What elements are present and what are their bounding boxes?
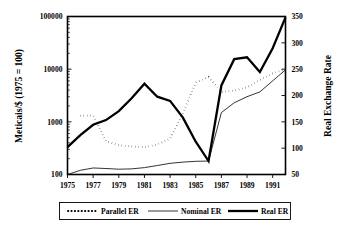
y2-axis-title: Real Exchange Rate — [323, 55, 333, 137]
y2-tick-label: 350 — [292, 12, 304, 21]
y2-tick-label: 300 — [292, 39, 304, 48]
y-tick-label: 10000 — [44, 65, 63, 74]
y-axis-tick-labels: 100100010000100000 — [40, 12, 63, 179]
x-tick-label: 1991 — [265, 181, 280, 190]
x-tick-label: 1977 — [86, 181, 101, 190]
y2-tick-label: 50 — [292, 170, 300, 179]
x-tick-label: 1989 — [239, 181, 254, 190]
axis-tick-marks — [68, 17, 286, 179]
x-tick-label: 1975 — [60, 181, 75, 190]
x-tick-label: 1987 — [214, 181, 229, 190]
legend-label-parallel-er: Parallel ER — [101, 207, 139, 216]
x-axis-tick-labels: 197519771979198119831985198719891991 — [60, 181, 281, 190]
y-axis-title: Meticais/$ (1975 = 100) — [14, 49, 25, 143]
y2-tick-label: 200 — [292, 91, 304, 100]
y-tick-label: 100000 — [40, 12, 63, 21]
y2-tick-label: 250 — [292, 65, 304, 74]
y-tick-label: 1000 — [47, 118, 62, 127]
series-parallel-er — [80, 69, 285, 147]
plot-frame — [68, 17, 286, 175]
series-real-er — [68, 17, 286, 161]
exchange-rate-line-chart: Meticais/$ (1975 = 100) Real Exchange Ra… — [0, 0, 349, 229]
y2-tick-label: 100 — [292, 144, 304, 153]
series-layer — [68, 17, 286, 174]
x-tick-label: 1979 — [111, 181, 126, 190]
y2-axis-tick-labels: 50100150200250300350 — [292, 12, 304, 179]
legend-label-real-er: Real ER — [261, 207, 289, 216]
x-tick-label: 1985 — [188, 181, 203, 190]
x-tick-label: 1981 — [137, 181, 152, 190]
y-tick-label: 100 — [51, 170, 63, 179]
x-tick-label: 1983 — [162, 181, 177, 190]
legend-label-nominal-er: Nominal ER — [181, 207, 222, 216]
y2-tick-label: 150 — [292, 118, 304, 127]
chart-figure: Meticais/$ (1975 = 100) Real Exchange Ra… — [0, 0, 349, 229]
